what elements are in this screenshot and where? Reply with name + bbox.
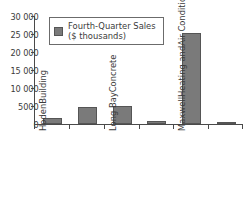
category-label-line: Air Conditioning <box>177 0 188 46</box>
bar-category-2 <box>78 107 97 124</box>
category-label-line: Building <box>38 70 49 104</box>
category-label-maxwell-heating: Maxwell Heating and Air Conditioning <box>177 0 188 131</box>
x-tick-mark <box>139 125 140 129</box>
x-tick-mark <box>242 125 243 129</box>
bar-category-4 <box>147 121 166 124</box>
category-label-hoden-building: Hoden Building <box>38 70 49 131</box>
bar-category-6 <box>217 122 236 124</box>
category-label-line: Hoden <box>38 104 49 131</box>
legend-swatch-icon <box>54 27 63 36</box>
x-tick-mark <box>104 125 105 129</box>
legend: Fourth-Quarter Sales ($ thousands) <box>49 17 164 45</box>
x-tick-mark <box>208 125 209 129</box>
category-label-long-bay-concrete: Long Bay Concrete <box>108 55 119 132</box>
legend-text: Fourth-Quarter Sales ($ thousands) <box>68 21 156 42</box>
category-label-line: Maxwell <box>177 97 188 131</box>
legend-line-1: Fourth-Quarter Sales <box>68 21 156 32</box>
category-label-line: Concrete <box>108 55 119 93</box>
category-label-line: Long Bay <box>108 92 119 131</box>
x-tick-mark <box>173 125 174 129</box>
bar-chart: 30 000 25 000 20 000 15 000 10 000 5000 … <box>0 0 247 207</box>
category-label-line: Heating and <box>177 46 188 97</box>
x-tick-mark <box>34 125 35 129</box>
x-tick-mark <box>69 125 70 129</box>
legend-line-2: ($ thousands) <box>68 31 156 42</box>
